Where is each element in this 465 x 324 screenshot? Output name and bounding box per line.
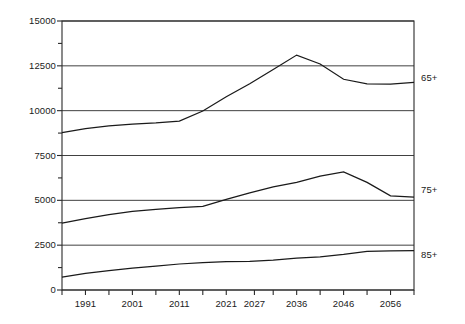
y-tick-label-5000: 5000 bbox=[4, 194, 56, 205]
x-axis-ticks bbox=[62, 290, 414, 295]
y-tick-label-2500: 2500 bbox=[4, 239, 56, 250]
series-label-65plus: 65+ bbox=[421, 72, 437, 83]
series-label-75plus: 75+ bbox=[421, 184, 437, 195]
y-tick-label-10000: 10000 bbox=[4, 105, 56, 116]
line-chart-canvas bbox=[0, 0, 465, 324]
x-tick-label-1991: 1991 bbox=[65, 298, 105, 309]
series-label-85plus: 85+ bbox=[421, 249, 437, 260]
y-tick-label-15000: 15000 bbox=[4, 15, 56, 26]
x-tick-label-2056: 2056 bbox=[371, 298, 411, 309]
x-tick-label-2036: 2036 bbox=[277, 298, 317, 309]
x-tick-label-2001: 2001 bbox=[112, 298, 152, 309]
x-tick-label-2011: 2011 bbox=[159, 298, 199, 309]
y-axis-ticks bbox=[57, 21, 62, 290]
y-tick-label-0: 0 bbox=[4, 284, 56, 295]
chart-figure: 0250050007500100001250015000 19912001201… bbox=[0, 0, 465, 324]
y-tick-label-12500: 12500 bbox=[4, 60, 56, 71]
x-tick-label-2046: 2046 bbox=[324, 298, 364, 309]
y-tick-label-7500: 7500 bbox=[4, 150, 56, 161]
x-tick-label-2027: 2027 bbox=[234, 298, 274, 309]
